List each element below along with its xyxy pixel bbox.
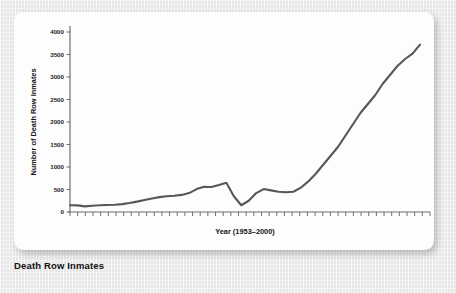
y-tick-label: 3500 [50,51,64,58]
y-axis-title: Number of Death Row Inmates [29,68,38,175]
figure-card: 05001000150020002500300035004000 Year (1… [14,12,434,250]
y-tick-label: 3000 [50,73,64,80]
y-tick-label: 0 [61,208,65,215]
figure-caption: Death Row Inmates [14,260,104,271]
y-tick-label: 1000 [50,163,64,170]
x-axis-title: Year (1953–2000) [215,227,275,236]
data-series-line [70,45,420,207]
y-tick-label: 2500 [50,96,64,103]
chart-plot-area: 05001000150020002500300035004000 Year (1… [14,12,434,250]
line-chart: 05001000150020002500300035004000 Year (1… [14,12,434,250]
y-tick-label: 2000 [50,118,64,125]
y-axis-tick-labels: 05001000150020002500300035004000 [50,28,64,215]
y-tick-label: 4000 [50,28,64,35]
y-tick-label: 500 [54,186,65,193]
x-axis-ticks [70,212,430,216]
y-tick-label: 1500 [50,141,64,148]
